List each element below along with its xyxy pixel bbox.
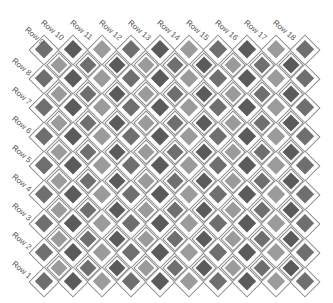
diamond-fill [180, 127, 198, 145]
diamond-fill [151, 156, 169, 174]
diamond-fill [296, 40, 314, 58]
diamond-fill [122, 214, 140, 232]
diamond-fill [209, 272, 227, 290]
diamond-fill [209, 40, 227, 58]
diamond-fill [93, 214, 111, 232]
diamond-fill [180, 272, 198, 290]
diamond-fill [267, 156, 285, 174]
diamond-fill [267, 127, 285, 145]
diamond-fill [93, 69, 111, 87]
diamond-fill [35, 69, 53, 87]
diamond-fill [35, 272, 53, 290]
diamond-fill [180, 156, 198, 174]
diamond-fill [296, 214, 314, 232]
diamond-fill [238, 69, 256, 87]
diamond-fill [93, 185, 111, 203]
diamond-fill [296, 69, 314, 87]
diamond-fill [35, 185, 53, 203]
diamond-fill [64, 40, 82, 58]
diamond-fill [151, 98, 169, 116]
diamond-fill [180, 185, 198, 203]
diamond-fill [267, 69, 285, 87]
diamond-fill [93, 98, 111, 116]
diamond-fill [93, 243, 111, 261]
diamond-fill [122, 40, 140, 58]
diamond-fill [93, 40, 111, 58]
diamond-fill [35, 214, 53, 232]
diamond-fill [238, 40, 256, 58]
diamond-fill [238, 98, 256, 116]
diamond-fill [267, 185, 285, 203]
diamond-fill [122, 243, 140, 261]
diamond-fill [180, 69, 198, 87]
diamond-fill [296, 185, 314, 203]
diamond-fill [64, 272, 82, 290]
diamond-fill [296, 272, 314, 290]
diamond-fill [238, 214, 256, 232]
diamond-fill [64, 185, 82, 203]
diamond-fill [238, 272, 256, 290]
diamond-fill [238, 185, 256, 203]
diamond-fill [180, 243, 198, 261]
diamond-fill [151, 272, 169, 290]
diamond-fill [209, 98, 227, 116]
diamond-fill [64, 98, 82, 116]
diamond-fill [238, 127, 256, 145]
diamond-fill [209, 243, 227, 261]
diamond-fill [151, 185, 169, 203]
diamond-fill [122, 127, 140, 145]
diamond-fill [35, 127, 53, 145]
diamond-fill [209, 185, 227, 203]
diamond-fill [180, 214, 198, 232]
diamond-fill [151, 214, 169, 232]
diamond-fill [151, 243, 169, 261]
diamond-fill [122, 272, 140, 290]
diamond-fill [209, 127, 227, 145]
diamond-fill [93, 156, 111, 174]
diamond-fill [267, 272, 285, 290]
diamond-fill [296, 98, 314, 116]
diamond-fill [64, 127, 82, 145]
diamond-fill [267, 243, 285, 261]
diamond-fill [267, 214, 285, 232]
diamond-fill [64, 69, 82, 87]
diamond-fill [238, 156, 256, 174]
diamond-fill [64, 214, 82, 232]
diamond-fill [209, 214, 227, 232]
diamond-fill [151, 69, 169, 87]
diamond-fill [64, 243, 82, 261]
diamond-fill [296, 127, 314, 145]
diamond-fill [93, 127, 111, 145]
diamond-fill [35, 243, 53, 261]
diamond-fill [122, 185, 140, 203]
diamond-fill [180, 40, 198, 58]
diamond-fill [209, 69, 227, 87]
diamond-fill [209, 156, 227, 174]
diamond-fill [151, 127, 169, 145]
diamond-fill [35, 98, 53, 116]
diamond-fill [296, 156, 314, 174]
diamond-fill [122, 69, 140, 87]
diamond-fill [267, 98, 285, 116]
diamond-fill [122, 98, 140, 116]
diamond-fill [35, 156, 53, 174]
diamond-fill [151, 40, 169, 58]
diamond-fill [267, 40, 285, 58]
diamond-fill [296, 243, 314, 261]
diamond-fill [93, 272, 111, 290]
diamond-fill [64, 156, 82, 174]
diamond-fill [180, 98, 198, 116]
diamond-fill [122, 156, 140, 174]
diamond-fill [238, 243, 256, 261]
diamond-grid-diagram [0, 0, 333, 303]
